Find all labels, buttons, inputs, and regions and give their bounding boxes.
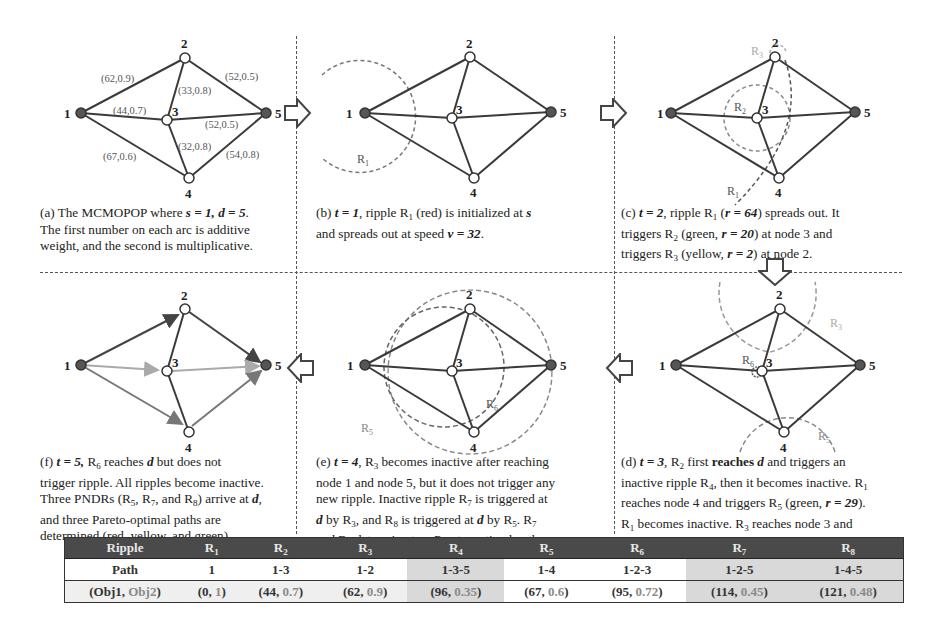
svg-text:1: 1	[64, 106, 71, 121]
node-1	[666, 108, 676, 118]
obj-r1: (0, 1)	[185, 581, 239, 603]
ripple-r3	[719, 282, 816, 352]
table-row-obj: (Obj1, Obj2) (0, 1) (44, 0.7) (62, 0.9) …	[65, 581, 904, 603]
obj-r4: (96, 0.35)	[407, 581, 504, 603]
node-4	[469, 173, 479, 183]
arc-label-2-3: (33,0.8)	[178, 85, 212, 97]
svg-text:4: 4	[470, 440, 477, 455]
ripple-label-r5: R5	[818, 429, 830, 445]
svg-text:4: 4	[470, 185, 477, 200]
node-3	[162, 115, 172, 125]
path-r7: 1-2-5	[686, 559, 794, 581]
node-4	[469, 427, 479, 437]
ripple-table: Ripple R1 R2 R3 R4 R5 R6 R7 R8 Path 1 1-…	[64, 537, 904, 603]
ripple-label-r3: R3	[751, 44, 763, 60]
svg-text:3: 3	[456, 355, 463, 370]
svg-text:3: 3	[172, 104, 179, 119]
path-label: Path	[65, 559, 186, 581]
path-r6: 1-2-3	[589, 559, 686, 581]
node-5	[546, 107, 556, 117]
svg-text:4: 4	[185, 440, 192, 455]
svg-text:3: 3	[172, 355, 179, 370]
arc-label-1-3: (44,0.7)	[113, 105, 147, 117]
arc-label-3-5: (52,0.5)	[205, 119, 239, 131]
node-5	[546, 360, 556, 370]
node-1	[671, 360, 681, 370]
ripple-label-r1: R1	[727, 184, 739, 200]
svg-text:1: 1	[346, 106, 353, 121]
node-1	[76, 360, 86, 370]
svg-text:5: 5	[864, 105, 871, 120]
header-r2: R2	[239, 538, 323, 559]
caption-f: (f) t = 5, R6 reaches d but does not tri…	[40, 454, 264, 545]
svg-text:2: 2	[772, 35, 779, 50]
arc-label-3-4: (32,0.8)	[178, 141, 212, 153]
graph-e: 1 2 3 4 5 R6 R5	[300, 272, 610, 472]
arc-label-2-5: (52,0.5)	[225, 71, 259, 83]
node-2	[180, 304, 190, 314]
graph-c: 1 2 3 4 5 R2 R3 R1	[610, 0, 935, 200]
header-r6: R6	[589, 538, 686, 559]
ripple-label-r2: R2	[734, 100, 746, 116]
svg-text:5: 5	[275, 358, 282, 373]
graph-a: 1 2 3 4 5 (62,0.9) (44,0.7) (67,0.6) (33…	[0, 0, 300, 200]
node-2	[775, 304, 785, 314]
svg-text:4: 4	[775, 185, 782, 200]
node-1	[360, 108, 370, 118]
node-5	[855, 360, 865, 370]
path-r8: 1-4-5	[793, 559, 903, 581]
caption-b: (b) t = 1, ripple R1 (red) is initialize…	[316, 205, 531, 242]
header-r4: R4	[407, 538, 504, 559]
node-1	[360, 360, 370, 370]
obj-r7: (114, 0.45)	[686, 581, 794, 603]
path-r2: 1-3	[239, 559, 323, 581]
svg-text:2: 2	[181, 288, 188, 303]
obj-r2: (44, 0.7)	[239, 581, 323, 603]
panel-c: 1 2 3 4 5 R2 R3 R1 (c) t = 2, ripple R1 …	[610, 0, 935, 265]
svg-text:1: 1	[657, 106, 664, 121]
caption-c: (c) t = 2, ripple R1 (r = 64) spreads ou…	[621, 205, 839, 267]
arc-label-1-4: (67,0.6)	[103, 151, 137, 163]
obj-r5: (67, 0.6)	[504, 581, 588, 603]
svg-text:1: 1	[659, 358, 666, 373]
svg-text:4: 4	[780, 440, 787, 455]
node-1	[76, 108, 86, 118]
obj-r3: (62, 0.9)	[323, 581, 407, 603]
svg-text:2: 2	[466, 287, 473, 302]
node-4	[184, 427, 194, 437]
arrow-right-a-to-b	[284, 98, 312, 128]
svg-text:2: 2	[776, 287, 783, 302]
caption-a: (a) The MCMOPOP where s = 1, d = 5. The …	[40, 205, 253, 255]
svg-text:5: 5	[275, 106, 282, 121]
svg-text:3: 3	[766, 355, 773, 370]
path-r4: 1-3-5	[407, 559, 504, 581]
ripple-label-r6: R6	[486, 397, 498, 413]
obj-r6: (95, 0.72)	[589, 581, 686, 603]
node-4	[779, 427, 789, 437]
node-4	[774, 173, 784, 183]
obj-r8: (121, 0.48)	[793, 581, 903, 603]
table-header-row: Ripple R1 R2 R3 R4 R5 R6 R7 R8	[65, 538, 904, 559]
graph-f: 1 2 3 4 5	[0, 272, 300, 472]
header-ripple: Ripple	[65, 538, 186, 559]
arc-label-1-2: (62,0.9)	[101, 73, 135, 85]
node-2	[770, 52, 780, 62]
ripple-label-r6: R6	[742, 353, 754, 369]
header-r3: R3	[323, 538, 407, 559]
node-5	[261, 360, 271, 370]
node-5	[850, 107, 860, 117]
node-5	[261, 108, 271, 118]
svg-text:4: 4	[185, 186, 192, 201]
table-row-path: Path 1 1-3 1-2 1-3-5 1-4 1-2-3 1-2-5 1-4…	[65, 559, 904, 581]
obj-label: (Obj1, Obj2)	[65, 581, 186, 603]
header-r1: R1	[185, 538, 239, 559]
node-3	[752, 113, 762, 123]
svg-text:5: 5	[869, 358, 876, 373]
panel-b: 1 2 3 4 5 R1 (b) t = 1, ripple R1 (red) …	[300, 0, 610, 265]
node-2	[465, 304, 475, 314]
header-r8: R8	[793, 538, 903, 559]
ripple-label-r3: R3	[830, 316, 842, 332]
path-r5: 1-4	[504, 559, 588, 581]
panel-f: 1 2 3 4 5 (f) t = 5, R6 reaches d but do…	[0, 272, 300, 537]
node-2	[180, 53, 190, 63]
